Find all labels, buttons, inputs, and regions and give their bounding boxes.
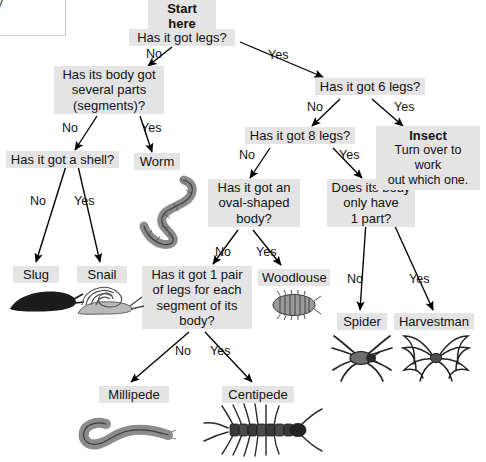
edge-label-segments-yes: Yes (141, 121, 161, 135)
edge-label-1part-yes: Yes (409, 272, 429, 286)
node-has-it-got-an-oval-shaped-body: Has it got an oval-shaped body? (208, 179, 300, 227)
node-has-it-got-6-legs: Has it got 6 legs? (315, 78, 425, 95)
node-start-here: Start here (148, 0, 216, 33)
node-has-it-got-a-shell: Has it got a shell? (6, 151, 119, 168)
binary-key-diagram: Start here Has it got legs? Has its body… (0, 0, 486, 462)
edge-label-legs-no: No (146, 47, 162, 61)
edge-label-8legs-yes: Yes (339, 148, 359, 162)
terminal-worm: Worm (134, 153, 180, 170)
harvestman-illustration (400, 330, 472, 384)
node-has-it-got-8-legs: Has it got 8 legs? (245, 127, 355, 144)
node-has-it-got-legs: Has it got legs? (129, 29, 235, 46)
edge-label-oval-yes: Yes (256, 245, 276, 259)
terminal-spider: Spider (337, 313, 387, 330)
node-has-its-body-got-several-parts: Has its body got several parts (segments… (54, 66, 164, 114)
edge-label-segments-no: No (62, 121, 78, 135)
terminal-harvestman: Harvestman (394, 313, 474, 330)
terminal-slug: Slug (13, 266, 59, 283)
edge-label-8legs-no: No (239, 148, 255, 162)
millipede-illustration (72, 404, 180, 462)
edge-label-6legs-yes: Yes (394, 100, 414, 114)
woodlouse-illustration (268, 288, 324, 322)
edge-label-1pair-no: No (175, 344, 191, 358)
edge-label-shell-yes: Yes (74, 194, 94, 208)
node-insect-result: Insect Turn over to work out which one. (376, 126, 480, 190)
spider-illustration (330, 330, 394, 384)
insect-subtitle: Turn over to work out which one. (380, 143, 476, 187)
centipede-illustration (200, 400, 324, 458)
terminal-woodlouse: Woodlouse (258, 269, 330, 286)
edge-label-shell-no: No (30, 194, 46, 208)
callout-line-1: e binary (0, 0, 3, 11)
node-has-it-got-1-pair-of-legs: Has it got 1 pair of legs for each segme… (142, 266, 252, 329)
edge-label-1part-no: No (347, 272, 363, 286)
insect-title: Insect (380, 128, 476, 143)
edge-label-1pair-yes: Yes (210, 344, 230, 358)
snail-illustration (70, 281, 150, 321)
callout-text: e binaryslug? (0, 0, 3, 32)
edge-label-6legs-no: No (307, 100, 323, 114)
edge-label-oval-no: No (215, 245, 231, 259)
edge-label-legs-yes: Yes (268, 48, 288, 62)
terminal-millipede: Millipede (99, 386, 169, 403)
page-callout-fragment: e binaryslug? (0, 0, 66, 36)
worm-illustration (128, 172, 200, 250)
